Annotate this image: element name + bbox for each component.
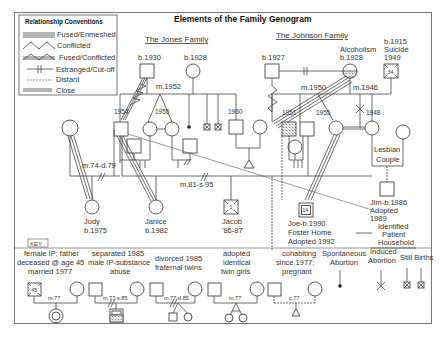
key0-female-ip <box>49 309 63 323</box>
johnson-mother-birth: b.1928 <box>340 53 363 62</box>
johnson-daughter2-birth: 1948 <box>366 109 381 116</box>
key1-male-ip-substance <box>110 309 123 322</box>
diagram-title: Elements of the Family Genogram <box>174 14 312 24</box>
key4-line3: pregnant <box>282 267 313 276</box>
key2-line2: fraternal twins <box>155 263 202 272</box>
key3-male <box>208 283 221 296</box>
joe-birth: Joe-b.1990 <box>288 219 326 228</box>
jacob-name: Jacob <box>222 217 242 226</box>
johnson-father-birth: b.1927 <box>262 53 285 62</box>
key1-line1: separated 1985 <box>92 249 144 258</box>
johnson-mother-female <box>343 64 357 78</box>
key3-line3: twin girls <box>221 267 250 276</box>
key7-stillbirth-1 <box>404 268 410 288</box>
johnson-husband2-age: 34 <box>388 69 394 75</box>
key-label: KEY <box>30 241 42 247</box>
jones-son2-male <box>229 120 243 134</box>
jones-twins-birth: 1955 <box>155 108 170 115</box>
jones-twin-1 <box>143 122 157 136</box>
key1-line3: abuse <box>110 267 130 276</box>
joe-adopted: Adopted 1992 <box>288 237 335 246</box>
key1-male <box>89 283 102 296</box>
key3-twin-1 <box>225 314 233 322</box>
key7-line1: Still Births <box>400 253 434 262</box>
jones-stillbirth-2 <box>215 124 221 130</box>
jones-father-male <box>140 64 154 78</box>
johnson-daughter2-female <box>365 121 379 135</box>
johnson-cutoff-line <box>279 67 343 75</box>
jones-son2-birth: 1960 <box>228 108 243 115</box>
key7-stillbirth-2 <box>418 268 424 288</box>
key4-line1: cohabiting <box>282 249 316 258</box>
key2-line1: divorced 1985 <box>155 254 202 263</box>
key0-line3: married 1977 <box>28 267 72 276</box>
key0-union: m.77 <box>48 295 60 301</box>
judy-name: Judy <box>84 217 100 226</box>
jones-mother-birth: b.1928 <box>184 53 207 62</box>
legend-fused-conflicted-label: Fused/Conflicted <box>59 53 115 62</box>
jones-mother-female <box>186 64 200 78</box>
key6-line2: Abortion <box>368 256 396 265</box>
johnson-husband2-death: 1949 <box>384 53 401 62</box>
joe-identified-patient-male: 14 <box>299 203 313 217</box>
judy-parents-marriage: m.74-d.79 <box>82 161 116 170</box>
jones-twin-2 <box>165 122 179 136</box>
key0-line2: deceased @ age 45 <box>17 258 84 267</box>
jones-family-label: The Jones Family <box>145 35 208 44</box>
relationship-legend: Relationship Conventions Fused/Enmeshed … <box>19 15 117 95</box>
key4-line2: since 1977; <box>276 258 314 267</box>
jones-stillbirth-1 <box>204 124 210 130</box>
janice-female <box>149 200 163 214</box>
joe-foster: Foster Home <box>288 228 331 237</box>
key4-pregnancy <box>292 309 300 316</box>
key1-line2: male IP-substance <box>88 258 150 267</box>
key5-spontaneous-abortion <box>338 284 342 288</box>
key4-union: c.77 <box>289 295 299 301</box>
johnson-son2-male <box>300 122 314 136</box>
legend-conflicted-label: Conflicted <box>57 41 90 50</box>
jones-twin-husband <box>183 139 197 153</box>
jacob-deceased-male: 1 <box>224 200 238 214</box>
key3-female <box>250 282 264 296</box>
jones-son-second-wife <box>127 139 141 153</box>
key2-twin-male <box>169 313 177 321</box>
jones-son-birth: 1954 <box>114 108 129 115</box>
key1-union: m.77-s.85 <box>103 295 127 301</box>
johnson-son-male <box>282 122 296 136</box>
key3-union: m.77 <box>229 295 241 301</box>
lesbian-partner-female <box>396 125 410 139</box>
johnson-daughter-female <box>329 121 343 135</box>
joe-age: 14 <box>303 207 309 213</box>
key6-induced-abortion <box>377 270 385 290</box>
jones-father-birth: b.1930 <box>138 53 161 62</box>
jacob-dates: '86-87 <box>222 226 243 235</box>
key0-female <box>70 282 84 296</box>
janice-parents-marriage: m.81-s.95 <box>180 180 213 189</box>
janice-parents-lines <box>117 134 372 210</box>
judy-mother-female <box>62 120 78 136</box>
key6-line1: Induced <box>370 247 397 256</box>
johnson-close-line <box>343 127 365 129</box>
legend-distant-label: Distant <box>56 75 80 84</box>
janice-name: Janice <box>145 217 167 226</box>
lesbian-couple-label-2: Couple <box>376 155 400 164</box>
key3-twin-2 <box>239 314 247 322</box>
johnson-son-wife <box>288 140 302 154</box>
key5-line1: Spontaneous <box>322 249 366 258</box>
legend-fused-label: Fused/Enmeshed <box>57 30 116 39</box>
johnson-daughter-birth: 1955 <box>316 109 331 116</box>
key0-line1: female IP; father <box>24 249 80 258</box>
key5-line2: Abortion <box>330 258 358 267</box>
lesbian-couple-label-1: Lesbian <box>374 145 400 154</box>
legend-estranged-label: Estranged/Cut-off <box>56 65 116 74</box>
jim-male <box>380 182 394 196</box>
johnson-father-male <box>265 64 279 78</box>
key0-deceased-male: 45 <box>28 283 41 296</box>
jones-son2-wife <box>253 120 267 134</box>
jones-spontaneous-abortion <box>187 125 191 129</box>
jones-marriage: m.1952 <box>156 82 181 91</box>
identified-patient-3: Household <box>378 238 414 247</box>
johnson-daughter-close-line <box>305 135 340 200</box>
key3-line1: adopted <box>223 249 250 258</box>
jones-son2-family-lines <box>236 134 260 168</box>
